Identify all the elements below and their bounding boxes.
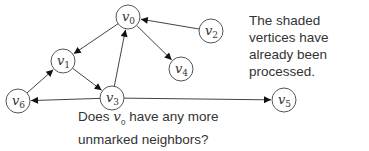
edge-v6-to-v1	[27, 70, 53, 93]
edge-v0-to-v4	[137, 25, 172, 59]
vertex-v3: v3	[100, 86, 124, 110]
edge-v2-to-v0	[141, 19, 199, 29]
question-note: Does v0 have any more unmarked neighbors…	[78, 108, 278, 148]
vertex-v0: v0	[116, 5, 140, 29]
edge-v3-to-v5	[124, 98, 271, 100]
edge-v0-to-v1	[74, 24, 118, 54]
vertex-v6: v6	[6, 89, 30, 113]
vertex-v1: v1	[51, 49, 75, 73]
vertex-v4: v4	[169, 57, 193, 81]
edge-v1-to-v3	[73, 68, 102, 90]
edge-v3-to-v6	[31, 98, 100, 100]
question-variable: v	[113, 108, 121, 124]
shaded-vertices-note: The shaded vertices have already been pr…	[249, 12, 369, 80]
vertex-v2: v2	[199, 19, 223, 43]
edge-v3-to-v0	[114, 30, 125, 86]
question-prefix: Does	[78, 109, 113, 124]
